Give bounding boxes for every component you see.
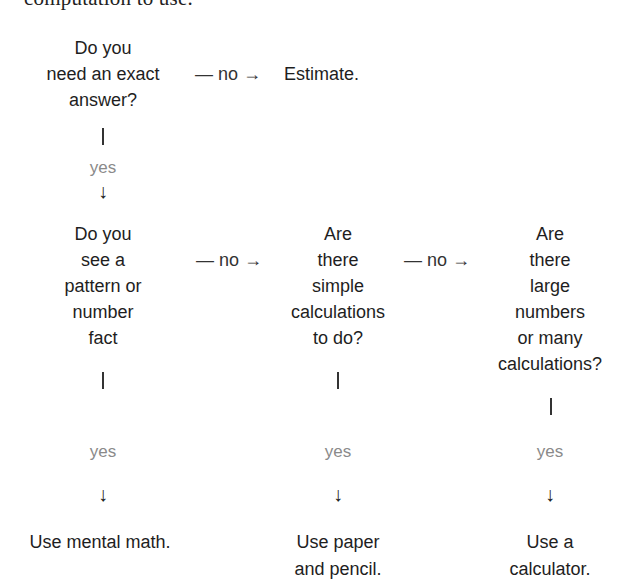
down-arrow-icon: ↓	[98, 483, 108, 505]
connector-line	[550, 398, 552, 415]
no-edge-label: — no →	[195, 61, 261, 87]
question-line: large	[498, 273, 602, 299]
question-line: number	[64, 299, 141, 325]
result-line: and pencil.	[294, 556, 381, 583]
result-paper-pencil: Use paper and pencil.	[294, 529, 381, 583]
question-line: Are	[498, 221, 602, 247]
result-line: Use a	[509, 529, 590, 556]
connector-line	[102, 372, 104, 389]
result-line: Use paper	[294, 529, 381, 556]
question-large-numbers: Are there large numbers or many calculat…	[498, 221, 602, 377]
question-line: Do you	[64, 221, 141, 247]
question-line: or many	[498, 325, 602, 351]
question-line: answer?	[46, 87, 159, 113]
no-edge-label: — no →	[196, 247, 262, 273]
result-calculator: Use a calculator.	[509, 529, 590, 583]
page-text-fragment: computation to use.	[24, 0, 193, 11]
question-line: calculations?	[498, 351, 602, 377]
no-edge-label: — no →	[404, 247, 470, 273]
yes-edge-label: yes	[90, 157, 116, 179]
question-line: numbers	[498, 299, 602, 325]
question-line: pattern or	[64, 273, 141, 299]
result-mental-math: Use mental math.	[29, 529, 170, 556]
result-line: Use mental math.	[29, 529, 170, 556]
question-line: Are	[291, 221, 385, 247]
yes-edge-label: yes	[90, 441, 116, 463]
question-line: calculations	[291, 299, 385, 325]
question-simple-calculations: Are there simple calculations to do?	[291, 221, 385, 351]
question-line: Do you	[46, 35, 159, 61]
connector-line	[102, 128, 104, 145]
question-line: there	[291, 247, 385, 273]
result-estimate: Estimate.	[284, 61, 359, 87]
yes-edge-label: yes	[537, 441, 563, 463]
down-arrow-icon: ↓	[333, 483, 343, 505]
question-line: to do?	[291, 325, 385, 351]
question-line: see a	[64, 247, 141, 273]
connector-line	[337, 372, 339, 389]
yes-edge-label: yes	[325, 441, 351, 463]
question-line: fact	[64, 325, 141, 351]
question-line: there	[498, 247, 602, 273]
result-line: calculator.	[509, 556, 590, 583]
down-arrow-icon: ↓	[98, 180, 108, 202]
question-line: simple	[291, 273, 385, 299]
down-arrow-icon: ↓	[545, 483, 555, 505]
question-exact-answer: Do you need an exact answer?	[46, 35, 159, 113]
question-line: need an exact	[46, 61, 159, 87]
question-pattern-fact: Do you see a pattern or number fact	[64, 221, 141, 351]
